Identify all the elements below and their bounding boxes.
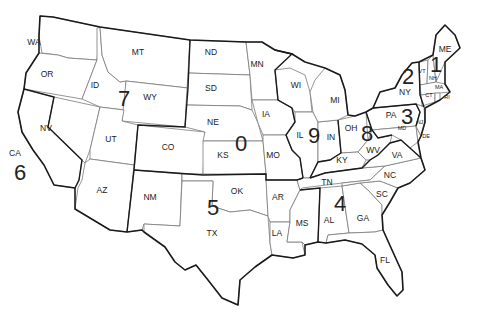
state-label-or: OR — [41, 69, 54, 79]
district-number-2: 2 — [402, 64, 414, 89]
state-label-wy: WY — [143, 92, 157, 102]
state-borders — [18, 16, 460, 305]
state-label-mn: MN — [250, 59, 263, 69]
state-wa[interactable] — [39, 16, 100, 60]
state-label-nc: NC — [384, 170, 396, 180]
state-label-nd: ND — [205, 47, 217, 57]
state-label-mt: MT — [132, 47, 144, 57]
state-label-ri: RI — [444, 94, 450, 100]
state-label-ky: KY — [336, 155, 348, 165]
state-label-sd: SD — [205, 83, 217, 93]
state-mi[interactable] — [310, 68, 348, 122]
state-label-wi: WI — [291, 80, 301, 90]
state-label-ms: MS — [296, 218, 309, 228]
state-label-ga: GA — [357, 213, 370, 223]
state-label-nj: NJ — [417, 119, 424, 125]
state-sd[interactable] — [186, 73, 252, 110]
state-label-ca: CA — [9, 148, 21, 158]
state-label-id: ID — [91, 80, 100, 90]
state-fl[interactable] — [326, 230, 403, 296]
state-label-ks: KS — [217, 150, 229, 160]
us-call-district-map: WAORCANVIDMTWYUTCOAZNMNDSDNEKSOKTXMNIAMO… — [0, 0, 478, 313]
state-label-wv: WV — [366, 145, 380, 155]
state-label-tn: TN — [321, 177, 332, 187]
state-label-ut: UT — [105, 134, 116, 144]
district-number-1: 1 — [430, 52, 442, 77]
state-label-de: DE — [422, 133, 430, 139]
state-az[interactable] — [75, 159, 134, 232]
state-label-mo: MO — [266, 150, 280, 160]
district-number-7: 7 — [118, 86, 130, 111]
state-label-fl: FL — [380, 255, 390, 265]
district-number-5: 5 — [207, 195, 219, 220]
state-label-oh: OH — [345, 123, 358, 133]
state-label-tx: TX — [207, 228, 218, 238]
state-label-ar: AR — [272, 192, 284, 202]
district-number-4: 4 — [334, 191, 346, 216]
state-label-co: CO — [162, 142, 175, 152]
state-label-ma: MA — [435, 84, 444, 90]
state-label-ne: NE — [207, 117, 219, 127]
state-label-sc: SC — [376, 189, 388, 199]
district-number-8: 8 — [361, 121, 373, 146]
state-label-in: IN — [327, 132, 336, 142]
state-label-ia: IA — [262, 109, 270, 119]
state-label-al: AL — [324, 215, 335, 225]
state-label-il: IL — [296, 130, 303, 140]
state-label-pa: PA — [386, 110, 397, 120]
district-number-9: 9 — [308, 123, 320, 148]
state-label-va: VA — [392, 150, 403, 160]
state-label-az: AZ — [97, 185, 108, 195]
state-label-la: LA — [272, 228, 283, 238]
state-label-nm: NM — [143, 192, 156, 202]
state-label-wa: WA — [27, 37, 41, 47]
state-wy[interactable] — [122, 81, 188, 127]
state-nd[interactable] — [188, 40, 250, 75]
state-label-nv: NV — [40, 123, 52, 133]
district-number-6: 6 — [14, 160, 26, 185]
district-number-0: 0 — [235, 131, 247, 156]
district-number-3: 3 — [401, 104, 413, 129]
state-label-ok: OK — [231, 186, 244, 196]
state-label-ct: CT — [425, 92, 433, 98]
state-label-vt: VT — [418, 68, 426, 74]
state-ny[interactable] — [373, 62, 424, 108]
state-label-mi: MI — [330, 95, 339, 105]
